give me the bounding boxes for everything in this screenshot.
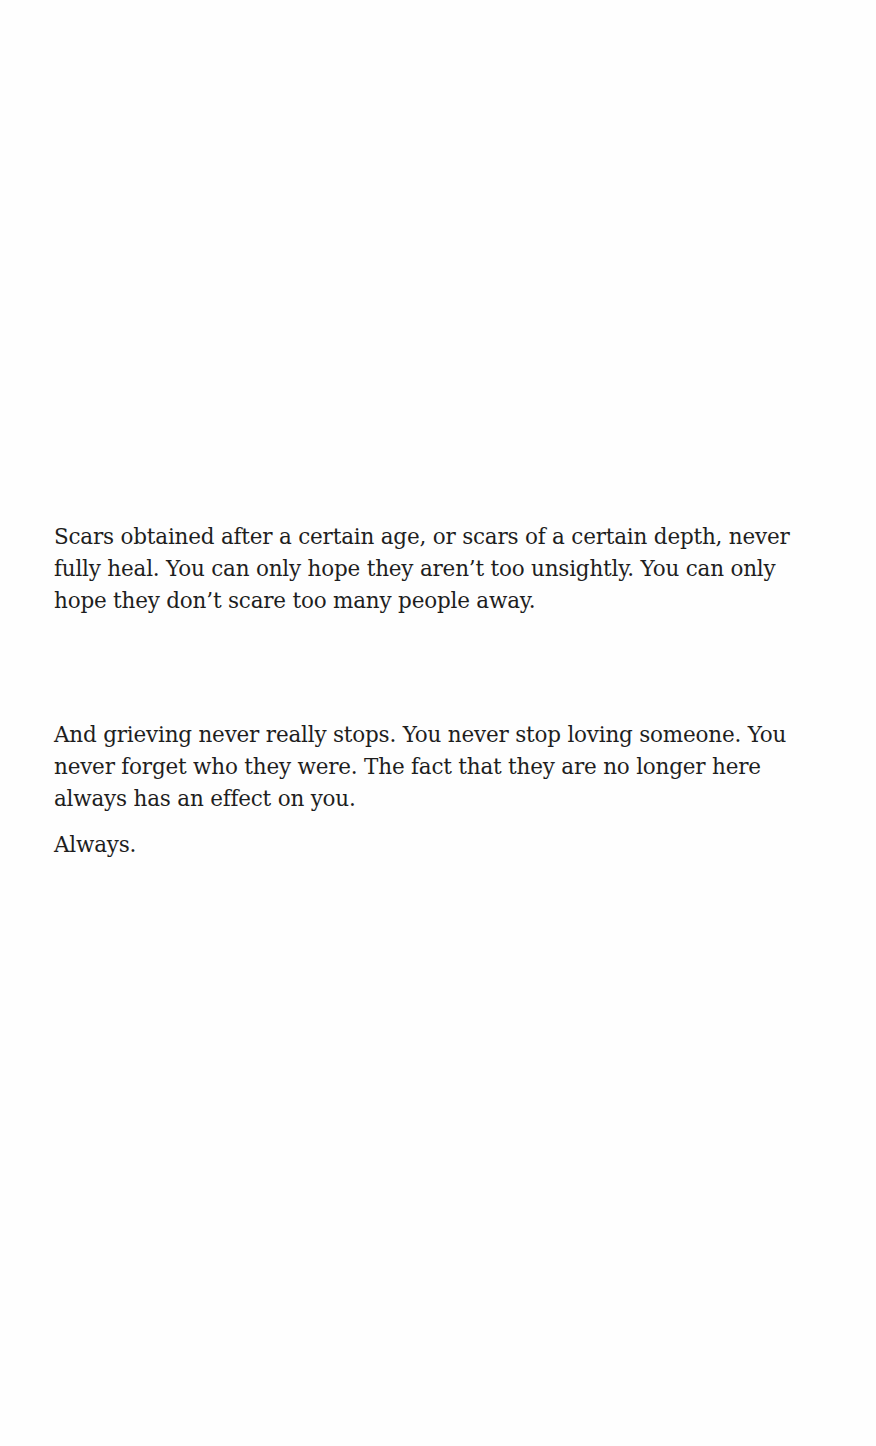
book-page: Scars obtained after a certain age, or s… bbox=[0, 0, 876, 1446]
paragraph-grieving: And grieving never really stops. You nev… bbox=[54, 719, 854, 815]
paragraph-scars: Scars obtained after a certain age, or s… bbox=[54, 521, 854, 617]
text-line: fully heal. You can only hope they aren’… bbox=[54, 553, 854, 585]
text-line: And grieving never really stops. You nev… bbox=[54, 719, 854, 751]
text-line: always has an effect on you. bbox=[54, 783, 854, 815]
paragraph-always: Always. bbox=[54, 829, 854, 861]
text-line: never forget who they were. The fact tha… bbox=[54, 751, 854, 783]
text-line: hope they don’t scare too many people aw… bbox=[54, 585, 854, 617]
text-line: Scars obtained after a certain age, or s… bbox=[54, 521, 854, 553]
text-line: Always. bbox=[54, 829, 854, 861]
